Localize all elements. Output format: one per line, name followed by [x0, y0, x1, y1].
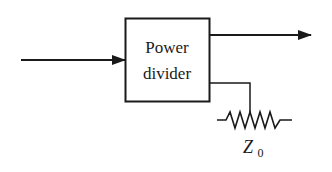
termination-label-main: Z	[243, 137, 254, 157]
power-divider-diagram: Power divider Z 0	[0, 0, 332, 172]
terminated-port-lead	[210, 83, 250, 113]
termination-label: Z 0	[243, 137, 264, 160]
resistor-icon	[217, 112, 292, 128]
block-label-line2: divider	[143, 64, 191, 83]
power-divider-block	[126, 19, 210, 102]
termination-label-sub: 0	[258, 146, 264, 160]
block-label-line1: Power	[145, 38, 189, 57]
